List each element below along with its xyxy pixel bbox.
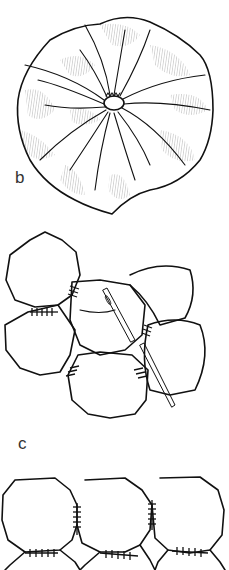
yoyo-grid-figure (2, 477, 225, 570)
needle-icon (103, 288, 175, 407)
yoyo-stitching-figure (5, 232, 205, 418)
stitches (30, 286, 152, 378)
yoyo-gathered-figure (18, 17, 214, 214)
panel-label-b: b (15, 168, 24, 188)
panel-label-c: c (18, 434, 27, 454)
illustration (0, 0, 229, 570)
